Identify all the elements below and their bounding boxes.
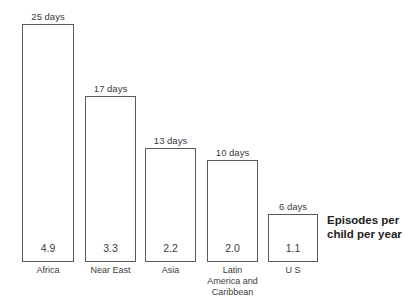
bar-asia[interactable]: 2.2 — [145, 148, 196, 262]
bar-latin-america[interactable]: 2.0 — [207, 160, 258, 262]
diarrhea-episodes-bar-chart: 25 days 4.9 Africa 17 days 3.3 Near East… — [0, 0, 419, 308]
bar-us[interactable]: 1.1 — [268, 214, 318, 262]
category-label-line: U S — [247, 265, 339, 276]
chart-caption: Episodes per child per year — [327, 213, 419, 241]
plot-area: 25 days 4.9 Africa 17 days 3.3 Near East… — [0, 0, 419, 308]
category-label-line: Caribbean — [187, 287, 279, 298]
bar-duration-label-us: 6 days — [279, 201, 307, 212]
category-label-us: U S — [247, 265, 339, 276]
bar-group-near-east: 17 days 3.3 Near East — [85, 96, 136, 262]
bar-value-us: 1.1 — [269, 242, 317, 254]
bar-duration-label-near-east: 17 days — [94, 83, 127, 94]
bar-value-latin-america: 2.0 — [208, 242, 257, 254]
category-label-line: America and — [187, 276, 279, 287]
bar-duration-label-africa: 25 days — [31, 11, 64, 22]
bar-value-asia: 2.2 — [146, 242, 195, 254]
bar-group-us: 6 days 1.1 U S — [268, 214, 318, 262]
bar-value-africa: 4.9 — [23, 242, 73, 254]
bar-group-africa: 25 days 4.9 Africa — [22, 24, 74, 262]
bar-near-east[interactable]: 3.3 — [85, 96, 136, 262]
bar-group-asia: 13 days 2.2 Asia — [145, 148, 196, 262]
bar-duration-label-asia: 13 days — [154, 135, 187, 146]
bar-duration-label-latin-america: 10 days — [216, 147, 249, 158]
bar-value-near-east: 3.3 — [86, 242, 135, 254]
bar-group-latin-america: 10 days 2.0 Latin America and Caribbean — [207, 160, 258, 262]
bar-africa[interactable]: 4.9 — [22, 24, 74, 262]
